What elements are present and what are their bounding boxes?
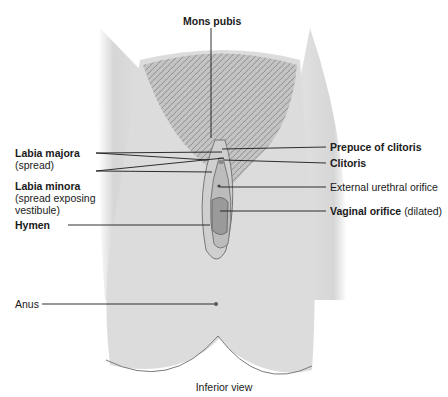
- label-labia-majora: Labia majora: [15, 147, 80, 159]
- vaginal-orifice-shape: [212, 197, 228, 234]
- label-labia-minora-note-1: (spread exposing: [15, 192, 96, 204]
- label-hymen: Hymen: [15, 219, 50, 231]
- label-vaginal-orifice-name: Vaginal orifice: [330, 205, 401, 217]
- label-labia-majora-note: (spread): [15, 159, 54, 171]
- label-labia-minora: Labia minora: [15, 180, 80, 192]
- label-anus: Anus: [15, 298, 39, 310]
- anus-shape: [214, 302, 218, 306]
- label-vaginal-orifice-note: (dilated): [404, 205, 442, 217]
- label-clitoris: Clitoris: [330, 157, 366, 169]
- anatomy-figure: Mons pubis Labia majora (spread) Labia m…: [0, 0, 448, 397]
- label-prepuce-of-clitoris: Prepuce of clitoris: [330, 141, 422, 153]
- view-caption: Inferior view: [0, 381, 448, 393]
- clitoris-shape: [218, 160, 224, 164]
- label-external-urethral-orifice: External urethral orifice: [330, 181, 438, 193]
- label-mons-pubis: Mons pubis: [183, 15, 241, 27]
- label-vaginal-orifice: Vaginal orifice (dilated): [330, 205, 442, 217]
- label-labia-minora-note-2: vestibule): [15, 204, 60, 216]
